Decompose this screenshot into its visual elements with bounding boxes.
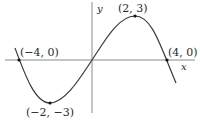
label-neg2-neg3: (−2, −3): [26, 106, 74, 119]
function-graph: (−4, 0) (−2, −3) (2, 3) (4, 0) x y: [0, 0, 200, 121]
label-neg4-0: (−4, 0): [20, 46, 59, 59]
label-4-0: (4, 0): [168, 46, 198, 59]
x-axis-label: x: [181, 61, 187, 72]
point-neg2-neg3: [48, 101, 51, 104]
y-axis-label: y: [96, 3, 103, 14]
label-2-3: (2, 3): [118, 2, 148, 15]
